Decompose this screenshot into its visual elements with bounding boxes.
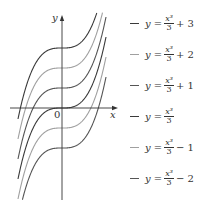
legend-label-prefix: y =: [145, 80, 162, 91]
legend-item: y =x³3− 1: [130, 132, 201, 163]
legend-swatch-icon: [130, 116, 139, 118]
legend-item: y =x³3+ 3: [130, 8, 201, 39]
legend-label-prefix: y =: [145, 49, 162, 60]
legend-swatch-icon: [130, 178, 139, 180]
origin-label: 0: [54, 109, 60, 120]
legend-item: y =x³3+ 1: [130, 70, 201, 101]
legend-label-suffix: − 2: [176, 173, 194, 184]
legend: y =x³3+ 3y =x³3+ 2y =x³3+ 1y =x³3y =x³3−…: [130, 8, 201, 194]
legend-label-prefix: y =: [145, 173, 162, 184]
legend-label-prefix: y =: [145, 18, 162, 29]
x-axis-label: x: [110, 109, 116, 120]
legend-swatch-icon: [130, 85, 139, 87]
legend-item: y =x³3− 2: [130, 163, 201, 194]
legend-fraction: x³3: [164, 108, 174, 125]
curve-0: [18, 13, 97, 119]
legend-item: y =x³3+ 2: [130, 39, 201, 70]
legend-label-suffix: + 1: [176, 80, 194, 91]
legend-swatch-icon: [130, 23, 139, 25]
legend-label-suffix: − 1: [176, 142, 194, 153]
legend-label-suffix: + 3: [176, 18, 194, 29]
legend-swatch-icon: [130, 147, 139, 149]
y-axis-arrow-icon: [60, 15, 64, 21]
curve-5: [22, 77, 106, 200]
legend-swatch-icon: [130, 54, 139, 56]
plot-area: y x 0: [0, 0, 120, 202]
legend-item: y =x³3: [130, 101, 201, 132]
legend-fraction: x³3: [164, 46, 174, 63]
legend-label-suffix: + 2: [176, 49, 194, 60]
legend-fraction: x³3: [164, 15, 174, 32]
y-axis-label: y: [51, 12, 58, 23]
legend-fraction: x³3: [164, 139, 174, 156]
curve-1: [18, 13, 102, 139]
legend-label-prefix: y =: [145, 142, 162, 153]
legend-label-prefix: y =: [145, 111, 162, 122]
legend-fraction: x³3: [164, 170, 174, 187]
legend-fraction: x³3: [164, 77, 174, 94]
